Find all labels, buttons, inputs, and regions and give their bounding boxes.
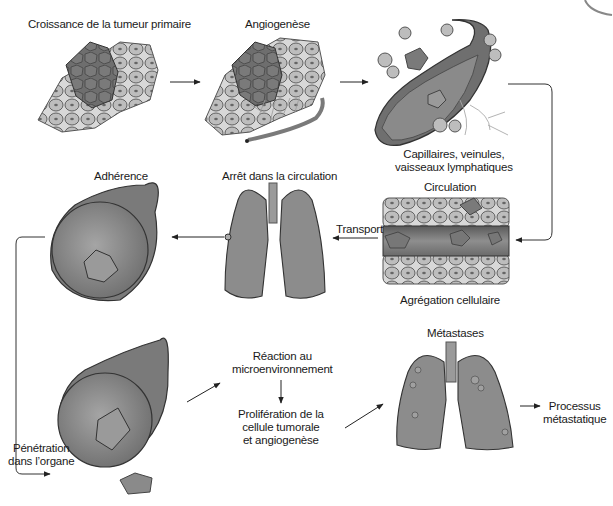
primary-tumor-illustration	[38, 42, 158, 132]
label-transport: Transport	[336, 223, 383, 236]
connector-to-penetration	[16, 237, 50, 474]
label-proliferation-line2: cellule tumorale	[238, 421, 324, 434]
label-vessels-line1: Capillaires, veinules,	[395, 148, 513, 161]
label-microenv: Réaction au microenvironnement	[232, 350, 333, 376]
label-primary-growth: Croissance de la tumeur primaire	[28, 18, 191, 31]
vessel-illustration	[375, 20, 508, 146]
label-process-line1: Processus	[543, 400, 606, 413]
angiogenesis-illustration	[205, 38, 325, 143]
label-proliferation-line3: et angiogenèse	[238, 434, 324, 447]
label-penetration-line2: dans l’organe	[8, 455, 74, 468]
circulation-illustration	[383, 198, 509, 284]
label-microenv-line2: microenvironnement	[232, 363, 333, 376]
corner-circle-fragment	[585, 0, 612, 15]
label-penetration: Pénétration dans l’organe	[8, 442, 74, 468]
label-proliferation: Prolifération de la cellule tumorale et …	[238, 408, 324, 447]
lungs-arrest-illustration	[225, 183, 325, 298]
arrow-to-metastases	[345, 404, 383, 428]
lungs-metastases-illustration	[397, 342, 513, 450]
adherence-illustration	[51, 183, 159, 301]
label-arrest: Arrêt dans la circulation	[222, 170, 337, 183]
label-aggregation: Agrégation cellulaire	[400, 294, 500, 307]
connector-to-circulation	[508, 84, 552, 240]
label-process-line2: métastatique	[543, 413, 606, 426]
label-process: Processus métastatique	[543, 400, 606, 426]
label-vessels-line2: vaisseaux lymphatiques	[395, 161, 513, 174]
label-angiogenesis: Angiogenèse	[245, 18, 310, 31]
label-penetration-line1: Pénétration	[8, 442, 74, 455]
label-circulation: Circulation	[424, 181, 476, 194]
label-proliferation-line1: Prolifération de la	[238, 408, 324, 421]
label-vessels: Capillaires, veinules, vaisseaux lymphat…	[395, 148, 513, 174]
label-metastases: Métastases	[427, 327, 484, 340]
label-microenv-line1: Réaction au	[232, 350, 333, 363]
arrow-to-microenv	[187, 383, 220, 402]
label-adherence: Adhérence	[94, 170, 148, 183]
penetration-illustration	[58, 338, 168, 494]
